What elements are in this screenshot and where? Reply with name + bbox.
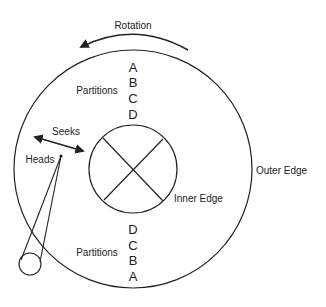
head-arm-line-2 bbox=[40, 156, 61, 262]
partition-letter-bottom: B bbox=[129, 253, 138, 268]
partition-letter-top: A bbox=[129, 60, 138, 75]
partition-letter-bottom: A bbox=[129, 269, 138, 284]
outer-edge-label: Outer Edge bbox=[256, 165, 308, 176]
heads-label: Heads bbox=[26, 154, 55, 165]
partitions-bottom-label: Partitions bbox=[76, 247, 118, 258]
rotation-label: Rotation bbox=[114, 20, 151, 31]
partition-letter-top: D bbox=[128, 107, 137, 122]
rotation-arrow-icon bbox=[81, 34, 188, 50]
partition-letter-top: B bbox=[129, 75, 138, 90]
inner-edge-label: Inner Edge bbox=[174, 193, 223, 204]
partition-letter-bottom: C bbox=[128, 238, 137, 253]
seeks-label: Seeks bbox=[52, 126, 80, 137]
partitions-top-label: Partitions bbox=[76, 85, 118, 96]
head-pivot-circle bbox=[19, 253, 41, 275]
disk-diagram: Rotation Partitions Partitions Seeks Hea… bbox=[0, 0, 326, 307]
partition-letter-top: C bbox=[128, 91, 137, 106]
partition-letter-bottom: D bbox=[128, 222, 137, 237]
seeks-arrow-icon bbox=[35, 137, 83, 151]
